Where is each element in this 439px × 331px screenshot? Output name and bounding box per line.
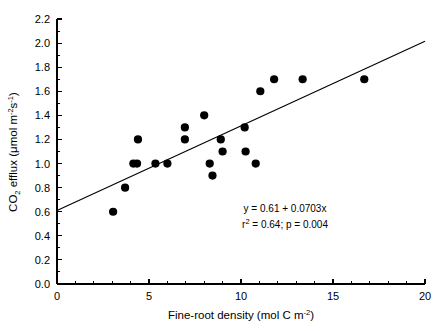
data-point bbox=[134, 135, 142, 143]
data-point bbox=[217, 135, 225, 143]
data-point bbox=[242, 147, 250, 155]
y-tick-label: 1.0 bbox=[35, 158, 50, 170]
x-axis-title-main: Fine-root density (mol C m bbox=[168, 309, 303, 321]
y-tick-label: 2.2 bbox=[35, 13, 50, 25]
data-point bbox=[219, 147, 227, 155]
y-tick-label: 0.6 bbox=[35, 206, 50, 218]
x-tick-label: 10 bbox=[235, 290, 247, 302]
y-tick-label: 0.0 bbox=[35, 278, 50, 290]
regression-stats-label: r2 = 0.64; p = 0.004 bbox=[242, 217, 328, 230]
p-value-text: = 0.64; p = 0.004 bbox=[250, 219, 329, 230]
data-point bbox=[121, 184, 129, 192]
data-point bbox=[270, 75, 278, 83]
data-point bbox=[360, 75, 368, 83]
data-point bbox=[151, 159, 159, 167]
x-axis-title-exponent: -2 bbox=[303, 308, 310, 317]
y-axis-title: CO2 efflux (μmol m-2s-1) bbox=[6, 92, 22, 212]
chart-figure: 0.00.20.40.60.81.01.21.41.61.82.02.2 051… bbox=[0, 0, 439, 331]
x-axis-title-tail: ) bbox=[310, 309, 314, 321]
y-axis-tick-labels: 0.00.20.40.60.81.01.21.41.61.82.02.2 bbox=[35, 13, 50, 290]
x-tick-label: 15 bbox=[327, 290, 339, 302]
data-point bbox=[200, 111, 208, 119]
data-point bbox=[181, 135, 189, 143]
y-axis-title-part2: efflux (μmol m bbox=[7, 115, 19, 190]
scatter-plot: 0.00.20.40.60.81.01.21.41.61.82.02.2 051… bbox=[0, 0, 439, 331]
x-axis-ticks bbox=[57, 279, 425, 284]
data-point bbox=[252, 159, 260, 167]
y-tick-label: 1.6 bbox=[35, 85, 50, 97]
y-tick-label: 0.2 bbox=[35, 254, 50, 266]
data-point bbox=[208, 171, 216, 179]
data-point bbox=[133, 159, 141, 167]
y-tick-label: 0.4 bbox=[35, 230, 50, 242]
x-tick-label: 0 bbox=[54, 290, 60, 302]
y-tick-label: 0.8 bbox=[35, 182, 50, 194]
y-axis-title-exponent2: -1 bbox=[6, 96, 15, 103]
data-point-series bbox=[109, 75, 368, 216]
x-axis-tick-labels: 05101520 bbox=[54, 290, 431, 302]
y-tick-label: 1.2 bbox=[35, 133, 50, 145]
y-axis-title-part1: CO bbox=[7, 195, 19, 212]
data-point bbox=[241, 123, 249, 131]
x-tick-label: 5 bbox=[146, 290, 152, 302]
data-point bbox=[256, 87, 264, 95]
y-axis-title-tail: ) bbox=[7, 92, 19, 96]
y-tick-label: 1.4 bbox=[35, 109, 50, 121]
data-point bbox=[206, 159, 214, 167]
x-axis-title: Fine-root density (mol C m-2) bbox=[168, 308, 314, 321]
y-tick-label: 1.8 bbox=[35, 61, 50, 73]
y-tick-label: 2.0 bbox=[35, 37, 50, 49]
y-axis-ticks bbox=[57, 19, 62, 284]
data-point bbox=[181, 123, 189, 131]
y-axis-title-exponent1: -2 bbox=[6, 108, 15, 115]
x-tick-label: 20 bbox=[419, 290, 431, 302]
data-point bbox=[163, 159, 171, 167]
data-point bbox=[299, 75, 307, 83]
regression-equation-label: y = 0.61 + 0.0703x bbox=[244, 203, 327, 214]
data-point bbox=[109, 208, 117, 216]
